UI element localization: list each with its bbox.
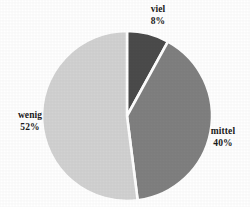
pie-label-mittel-name: mittel bbox=[196, 126, 250, 138]
pie-label-wenig-percent: 52% bbox=[2, 122, 58, 134]
pie-label-wenig-name: wenig bbox=[2, 110, 58, 122]
pie-slice-group bbox=[42, 31, 212, 201]
pie-label-wenig: wenig 52% bbox=[2, 110, 58, 133]
pie-chart: viel 8% mittel 40% wenig 52% bbox=[0, 0, 250, 207]
pie-label-viel: viel 8% bbox=[128, 4, 188, 27]
pie-label-mittel-percent: 40% bbox=[196, 138, 250, 150]
pie-label-viel-percent: 8% bbox=[128, 16, 188, 28]
pie-label-viel-name: viel bbox=[128, 4, 188, 16]
pie-label-mittel: mittel 40% bbox=[196, 126, 250, 149]
pie-chart-canvas bbox=[0, 0, 250, 207]
